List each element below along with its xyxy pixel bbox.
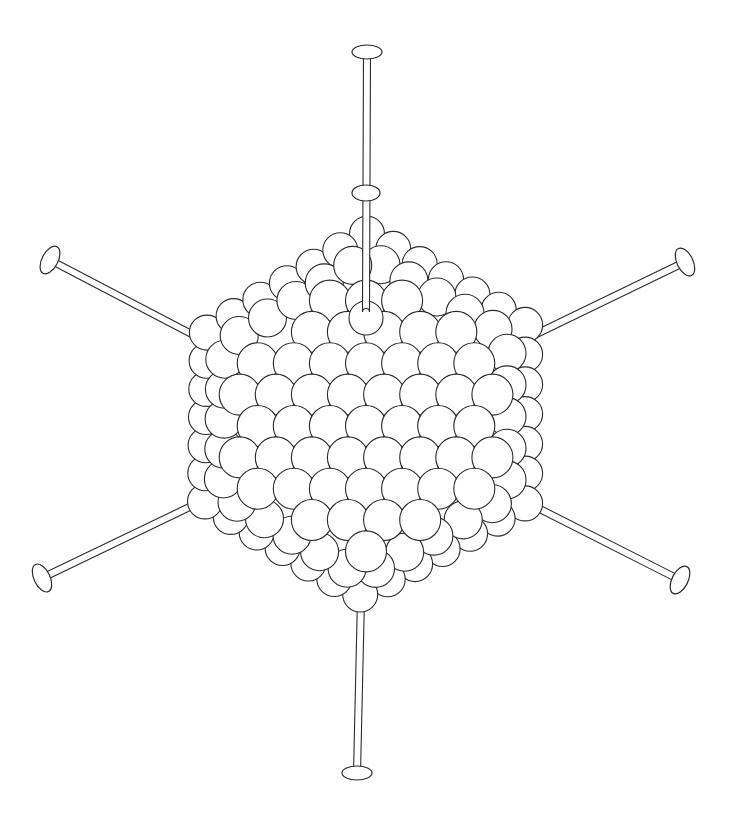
fiber-knob	[36, 243, 64, 277]
capsomer	[400, 500, 441, 541]
fiber-shaft	[526, 500, 681, 583]
fiber-knob	[28, 561, 55, 595]
fiber-shaft	[48, 257, 204, 343]
fiber-shaft	[354, 598, 365, 773]
fiber-shaft	[526, 259, 686, 341]
capsomer	[346, 531, 387, 572]
fiber-knob	[666, 563, 694, 597]
fiber-knob	[342, 766, 372, 780]
fiber-shaft	[363, 52, 371, 312]
fiber-shaft	[40, 499, 201, 581]
fiber-knob	[671, 245, 698, 279]
fiber-lower-right	[526, 500, 693, 597]
fiber-bottom	[342, 598, 372, 780]
fiber-mid-knob	[352, 185, 380, 201]
capsomer	[237, 468, 278, 509]
virus-illustration	[0, 0, 731, 830]
fiber-upper-right	[526, 245, 698, 341]
virus-svg	[0, 0, 731, 830]
capsomer	[454, 468, 495, 509]
fiber-knob	[352, 45, 382, 59]
capsomer	[291, 500, 332, 541]
fiber-upper-left	[36, 243, 205, 343]
fiber-lower-left	[28, 499, 201, 595]
